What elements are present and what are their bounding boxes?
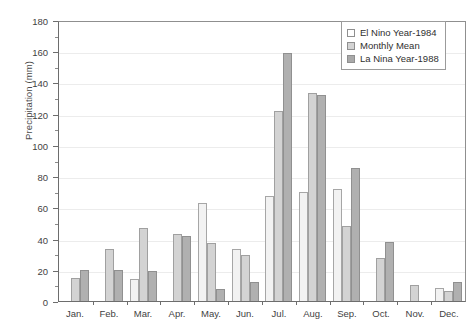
bar <box>71 278 80 301</box>
bar <box>207 243 216 301</box>
y-tick-label: 160 <box>0 47 48 58</box>
legend-swatch-monthly-mean <box>347 42 355 50</box>
bar <box>80 270 89 301</box>
bar <box>105 249 114 301</box>
y-tick-label: 20 <box>0 265 48 276</box>
x-tick-label: Jun. <box>228 308 262 324</box>
y-tick-label: 60 <box>0 203 48 214</box>
legend-label-la-nina: La Nina Year-1988 <box>360 53 439 64</box>
bar <box>283 53 292 301</box>
bar-group <box>228 22 262 301</box>
bar <box>435 288 444 301</box>
y-tick-label: 80 <box>0 172 48 183</box>
bar <box>317 95 326 301</box>
y-tick-label: 120 <box>0 109 48 120</box>
bar-group <box>262 22 296 301</box>
legend-item-el-nino: El Nino Year-1984 <box>347 26 439 39</box>
y-tick-label: 140 <box>0 78 48 89</box>
x-tick-mark <box>397 301 398 305</box>
x-tick-mark <box>93 301 94 305</box>
x-tick-mark <box>363 301 364 305</box>
x-tick-label: Nov. <box>398 308 432 324</box>
y-tick-label: 180 <box>0 16 48 27</box>
bar <box>265 196 274 301</box>
y-tick-mark <box>53 302 58 303</box>
x-tick-label: May. <box>194 308 228 324</box>
y-tick-label: 100 <box>0 140 48 151</box>
bar <box>351 168 360 301</box>
bar <box>216 289 225 301</box>
x-tick-mark <box>228 301 229 305</box>
bar-group <box>160 22 194 301</box>
x-tick-label: Dec. <box>432 308 466 324</box>
x-tick-label: Feb. <box>92 308 126 324</box>
bar <box>232 249 241 301</box>
bar <box>241 255 250 301</box>
bar <box>299 192 308 301</box>
bar <box>148 271 157 301</box>
x-tick-label: Aug. <box>296 308 330 324</box>
y-tick-label: 0 <box>0 297 48 308</box>
y-axis-ticks: 020406080100120140160180 <box>0 0 58 326</box>
bar <box>385 242 394 301</box>
bar <box>114 270 123 301</box>
y-tick-label: 40 <box>0 234 48 245</box>
x-tick-mark <box>127 301 128 305</box>
bar-group <box>296 22 330 301</box>
bar <box>410 285 419 301</box>
bar-group <box>93 22 127 301</box>
bar <box>173 234 182 301</box>
x-tick-mark <box>160 301 161 305</box>
x-tick-mark <box>194 301 195 305</box>
bar <box>198 203 207 301</box>
chart-legend: El Nino Year-1984 Monthly Mean La Nina Y… <box>341 21 446 70</box>
bar-group <box>127 22 161 301</box>
bar <box>333 189 342 301</box>
legend-label-el-nino: El Nino Year-1984 <box>360 27 437 38</box>
bar <box>453 282 462 302</box>
bar-group <box>59 22 93 301</box>
bar <box>130 279 139 301</box>
bar <box>250 282 259 301</box>
x-tick-mark <box>330 301 331 305</box>
legend-swatch-la-nina <box>347 55 355 63</box>
precipitation-bar-chart: Precipitation (mm) 020406080100120140160… <box>0 0 473 326</box>
x-tick-label: Sep. <box>330 308 364 324</box>
bar <box>139 228 148 301</box>
x-tick-mark <box>262 301 263 305</box>
x-tick-label: Jul. <box>262 308 296 324</box>
bar <box>342 226 351 301</box>
bar <box>274 111 283 301</box>
x-tick-label: Jan. <box>58 308 92 324</box>
x-tick-mark <box>296 301 297 305</box>
legend-swatch-el-nino <box>347 29 355 37</box>
bar-group <box>194 22 228 301</box>
x-tick-label: Oct. <box>364 308 398 324</box>
legend-item-monthly-mean: Monthly Mean <box>347 39 439 52</box>
x-axis-labels: Jan.Feb.Mar.Apr.May.Jun.Jul.Aug.Sep.Oct.… <box>58 308 466 324</box>
bar <box>376 258 385 301</box>
x-tick-label: Mar. <box>126 308 160 324</box>
bar <box>444 291 453 301</box>
x-tick-label: Apr. <box>160 308 194 324</box>
bar <box>182 236 191 301</box>
x-tick-mark <box>431 301 432 305</box>
legend-label-monthly-mean: Monthly Mean <box>360 40 420 51</box>
legend-item-la-nina: La Nina Year-1988 <box>347 52 439 65</box>
bar <box>308 93 317 301</box>
